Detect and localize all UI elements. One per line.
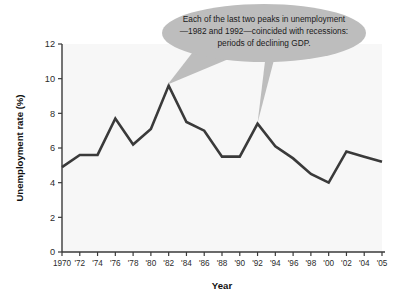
x-tick-label: '76: [110, 259, 121, 268]
x-tick-label: '78: [128, 259, 139, 268]
x-tick-label: '94: [270, 259, 281, 268]
x-tick-label: '00: [323, 259, 334, 268]
x-tick-label: '86: [199, 259, 210, 268]
y-tick-label: 2: [50, 213, 55, 223]
y-axis-title: Unemployment rate (%): [14, 94, 25, 201]
x-tick-label: '80: [146, 259, 157, 268]
x-tick-label: 1970: [53, 259, 72, 268]
callout-line-2: —1982 and 1992—coincided with recessions…: [180, 26, 348, 36]
x-tick-label: '74: [92, 259, 103, 268]
y-tick-label: 0: [50, 247, 55, 257]
y-tick-label: 10: [45, 74, 55, 84]
y-tick-label: 4: [50, 178, 55, 188]
x-tick-label: '96: [288, 259, 299, 268]
x-axis-title: Year: [212, 280, 233, 291]
x-tick-label: '82: [163, 259, 174, 268]
y-tick-label: 12: [45, 39, 55, 49]
unemployment-line-chart: 024681012 1970'72'74'76'78'80'82'84'86'8…: [0, 0, 411, 297]
callout-line-1: Each of the last two peaks in unemployme…: [183, 14, 346, 24]
x-tick-label: '88: [217, 259, 228, 268]
x-tick-label: '04: [359, 259, 370, 268]
x-tick-label: '90: [234, 259, 245, 268]
plot-area-background: [62, 44, 382, 252]
callout-line-3: periods of declining GDP.: [217, 38, 310, 48]
x-tick-label: '05: [377, 259, 388, 268]
x-tick-label: '92: [252, 259, 263, 268]
x-tick-label: '72: [74, 259, 85, 268]
chart-figure: 024681012 1970'72'74'76'78'80'82'84'86'8…: [0, 0, 411, 297]
x-tick-label: '02: [341, 259, 352, 268]
x-tick-label: '98: [306, 259, 317, 268]
y-tick-label: 6: [50, 143, 55, 153]
x-tick-label: '84: [181, 259, 192, 268]
y-tick-label: 8: [50, 109, 55, 119]
